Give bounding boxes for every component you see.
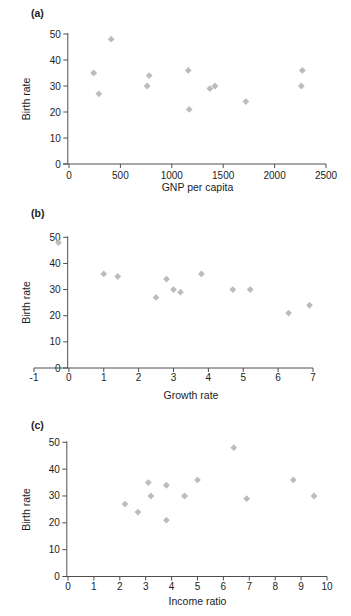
y-axis-title: Birth rate (20, 281, 32, 324)
data-point (230, 444, 237, 451)
x-tick-label: 6 (221, 581, 227, 592)
plot-area: 0500100015002000250001020304050 (50, 29, 338, 181)
plot-area: 01234567891001020304050 (49, 437, 333, 592)
data-point (135, 509, 142, 516)
data-point (198, 270, 205, 277)
y-tick-label: 0 (54, 571, 60, 582)
data-point (170, 286, 177, 293)
y-tick-label: 10 (49, 544, 61, 555)
x-tick-label: 7 (247, 581, 253, 592)
data-point (146, 72, 153, 79)
y-tick-label: 20 (50, 310, 62, 321)
data-point (247, 286, 254, 293)
three-panel-scatter-figure: (a) GNP per capita Birth rate 0500100015… (0, 0, 351, 616)
data-point (290, 476, 297, 483)
data-point (100, 270, 107, 277)
y-tick-label: 20 (49, 517, 61, 528)
scatter-panel-b: (b) Growth rate Birth rate -101234567010… (0, 205, 351, 412)
x-tick-label: 2 (136, 372, 142, 383)
data-point (163, 276, 170, 283)
y-tick-label: 0 (55, 363, 61, 374)
x-tick-label: 500 (112, 170, 129, 181)
y-tick-label: 30 (50, 81, 62, 92)
panel-label: (c) (31, 419, 44, 431)
data-point (163, 517, 170, 524)
y-tick-label: 10 (50, 133, 62, 144)
x-tick-label: 0 (65, 581, 71, 592)
data-point (298, 83, 305, 90)
x-tick-label: 7 (310, 372, 316, 383)
x-tick-label: 9 (298, 581, 304, 592)
y-tick-label: 50 (49, 437, 61, 448)
y-axis-title: Birth rate (20, 488, 32, 531)
data-point (185, 67, 192, 74)
x-tick-label: 5 (195, 581, 201, 592)
x-tick-label: 3 (171, 372, 177, 383)
data-point (306, 302, 313, 309)
scatter-panel-a: (a) GNP per capita Birth rate 0500100015… (0, 0, 351, 205)
data-point (243, 495, 250, 502)
data-point (144, 83, 151, 90)
y-tick-label: 30 (50, 284, 62, 295)
x-tick-label: 1500 (212, 170, 235, 181)
x-tick-label: 3 (143, 581, 149, 592)
data-point (90, 70, 97, 77)
panel-label: (a) (31, 7, 44, 19)
data-point (153, 294, 160, 301)
data-point (108, 36, 115, 43)
data-point (299, 67, 306, 74)
x-tick-label: 8 (272, 581, 278, 592)
x-tick-label: 2 (117, 581, 123, 592)
data-point (114, 273, 121, 280)
x-tick-label: 4 (206, 372, 212, 383)
scatter-chart-growth: (b) Growth rate Birth rate -101234567010… (0, 205, 351, 412)
y-tick-label: 40 (49, 464, 61, 475)
y-tick-label: 0 (55, 159, 61, 170)
y-axis-title: Birth rate (20, 78, 32, 121)
panel-label: (b) (31, 207, 44, 219)
y-tick-label: 40 (50, 258, 62, 269)
data-point (122, 501, 129, 508)
x-axis-title: Income ratio (169, 595, 227, 607)
data-point (194, 476, 201, 483)
data-point (311, 493, 318, 500)
data-point (186, 106, 193, 113)
scatter-chart-gnp: (a) GNP per capita Birth rate 0500100015… (0, 0, 351, 205)
x-tick-label: 1 (91, 581, 97, 592)
data-point (147, 493, 154, 500)
y-tick-label: 50 (50, 29, 62, 40)
data-point (229, 286, 236, 293)
x-axis-title: Growth rate (164, 389, 219, 401)
x-axis-title: GNP per capita (162, 181, 234, 193)
plot-area: -10123456701020304050 (30, 232, 317, 383)
x-tick-label: 6 (275, 372, 281, 383)
scatter-chart-income: (c) Income ratio Birth rate 012345678910… (0, 412, 351, 616)
data-point (163, 482, 170, 489)
y-tick-label: 20 (50, 107, 62, 118)
x-tick-label: 2500 (315, 170, 338, 181)
x-tick-label: 0 (66, 372, 72, 383)
data-point (285, 310, 292, 317)
y-tick-label: 40 (50, 55, 62, 66)
x-tick-label: 2000 (263, 170, 286, 181)
x-tick-label: 10 (321, 581, 333, 592)
data-point (145, 479, 152, 486)
x-tick-label: 0 (66, 170, 72, 181)
x-tick-label: 5 (240, 372, 246, 383)
scatter-panel-c: (c) Income ratio Birth rate 012345678910… (0, 412, 351, 616)
data-point (242, 98, 249, 105)
data-point (177, 289, 184, 296)
x-tick-label: 4 (169, 581, 175, 592)
x-tick-label: -1 (30, 372, 39, 383)
y-tick-label: 30 (49, 490, 61, 501)
x-tick-label: 1000 (161, 170, 184, 181)
y-tick-label: 10 (50, 336, 62, 347)
x-tick-label: 1 (101, 372, 107, 383)
data-point (181, 493, 188, 500)
data-point (95, 90, 102, 97)
